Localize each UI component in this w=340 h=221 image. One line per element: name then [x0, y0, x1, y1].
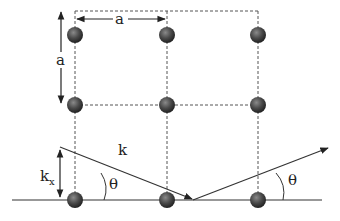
kx-label: kx — [40, 167, 55, 187]
lattice-constant-vertical-arrow: a — [56, 12, 65, 103]
diagram-svg: a a k kx θ θ — [0, 0, 340, 221]
incident-angle-label: θ — [109, 175, 118, 193]
incident-angle-arc — [101, 173, 106, 200]
atom — [67, 192, 83, 208]
atom — [67, 27, 83, 43]
diffraction-diagram: a a k kx θ θ — [0, 0, 340, 221]
atom — [250, 27, 266, 43]
reflected-angle-label: θ — [288, 171, 297, 189]
atom — [250, 192, 266, 208]
atom — [159, 192, 175, 208]
atom — [159, 27, 175, 43]
lattice-constant-horizontal-label: a — [115, 10, 124, 28]
lattice-constant-vertical-label: a — [56, 51, 65, 69]
atom — [159, 97, 175, 113]
wavevector-label: k — [118, 141, 128, 159]
atom — [250, 97, 266, 113]
atom — [67, 97, 83, 113]
reflected-angle-arc — [276, 173, 284, 200]
reflected-beam — [193, 148, 328, 200]
lattice-constant-horizontal-arrow: a — [77, 10, 165, 28]
